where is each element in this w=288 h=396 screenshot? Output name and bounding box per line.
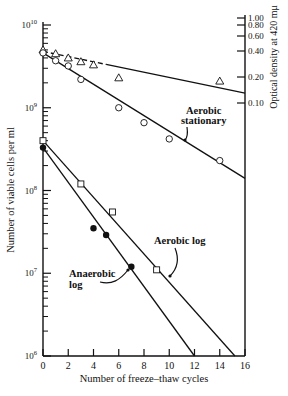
y2-tick-label: 0.60 (248, 31, 264, 41)
y2-tick-label: 0.40 (248, 46, 264, 56)
arrow-aerobic-stationary (185, 127, 187, 140)
x-tick-label: 4 (91, 360, 96, 371)
fit-line (106, 64, 245, 93)
square-marker (109, 209, 115, 215)
filled-circle-marker (90, 225, 96, 231)
x-tick-label: 0 (41, 360, 46, 371)
annotation-aerobic-log: Aerobic log (154, 235, 206, 246)
circle-marker (40, 50, 46, 56)
annotation-anaerobic-log-2: log (69, 279, 83, 290)
y-tick-label: 108 (25, 184, 37, 196)
arrow-aerobic-log (170, 248, 177, 276)
x-tick-label: 6 (116, 360, 121, 371)
annotation-anaerobic-log-1: Anaerobic (69, 268, 116, 279)
circle-marker (52, 58, 58, 64)
arrow-head (126, 268, 129, 271)
square-marker (154, 267, 160, 273)
fit-lines (43, 51, 245, 356)
x-tick-label: 10 (164, 360, 174, 371)
y2-tick-label: 0.80 (248, 20, 264, 30)
fit-line (43, 141, 235, 356)
x-tick-label: 8 (142, 360, 147, 371)
y-tick-label: 1010 (22, 18, 38, 30)
x-tick-label: 12 (190, 360, 200, 371)
square-marker (40, 138, 46, 144)
axes: 106107108109101002468101214161.000.800.6… (22, 13, 265, 371)
fit-line (43, 148, 195, 356)
y2-axis-label: Optical density at 420 mμ (268, 5, 279, 109)
x-tick-label: 14 (215, 360, 225, 371)
circle-marker (116, 105, 122, 111)
y-tick-label: 107 (25, 266, 38, 278)
annotation-aerobic-stationary-2: stationary (181, 115, 227, 126)
y2-tick-label: 0.20 (248, 72, 264, 82)
arrow-head (183, 138, 186, 141)
square-marker (78, 181, 84, 187)
circle-marker (78, 76, 84, 82)
circle-marker (217, 157, 223, 163)
triangle-marker (115, 74, 123, 81)
filled-circle-marker (40, 144, 46, 150)
y-tick-label: 109 (25, 101, 37, 113)
circle-marker (141, 119, 147, 125)
filled-circle-marker (103, 232, 109, 238)
x-axis-label: Number of freeze–thaw cycles (80, 373, 209, 384)
x-tick-label: 2 (66, 360, 71, 371)
x-tick-label: 16 (240, 360, 250, 371)
arrow-head (168, 274, 171, 277)
circle-marker (65, 63, 71, 69)
y-axis-label: Number of viable cells per ml (5, 127, 16, 253)
triangle-marker (216, 77, 224, 84)
y2-tick-label: 0.10 (248, 98, 264, 108)
chart: 106107108109101002468101214161.000.800.6… (0, 0, 288, 396)
circle-marker (166, 136, 172, 142)
y-tick-label: 106 (25, 349, 38, 361)
